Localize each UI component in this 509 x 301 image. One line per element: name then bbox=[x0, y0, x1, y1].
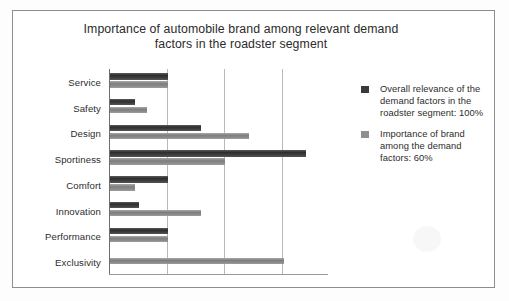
bar-design-importance-of-brand bbox=[110, 133, 249, 139]
bar-comfort-importance-of-brand bbox=[110, 184, 135, 190]
legend-label-line-1: Importance of brand bbox=[380, 128, 501, 140]
bar-innovation-importance-of-brand bbox=[110, 210, 201, 216]
category-label-exclusivity: Exclusivity bbox=[55, 257, 101, 268]
gridline-1 bbox=[167, 69, 168, 275]
bar-performance-overall-relevance bbox=[110, 228, 168, 234]
category-label-safety: Safety bbox=[73, 102, 101, 113]
chart-title-line-2: factors in the roadster segment bbox=[41, 37, 441, 52]
scan-artifact bbox=[413, 226, 441, 252]
category-label-performance: Performance bbox=[45, 231, 101, 242]
bar-sportiness-overall-relevance bbox=[110, 150, 306, 156]
chart-legend: Overall relevance of the demand factors … bbox=[361, 83, 501, 174]
chart-title: Importance of automobile brand among rel… bbox=[41, 22, 441, 52]
legend-label-line-2: among the demand bbox=[380, 140, 501, 152]
square-swatch-icon bbox=[361, 86, 369, 94]
plot-area: Service Safety Design Sportiness bbox=[109, 69, 328, 275]
category-label-design: Design bbox=[71, 128, 101, 139]
legend-label-line-3: factors: 60% bbox=[380, 152, 501, 164]
bar-safety-importance-of-brand bbox=[110, 107, 147, 113]
legend-label-line-1: Overall relevance of the bbox=[380, 83, 501, 95]
chart-title-line-1: Importance of automobile brand among rel… bbox=[41, 22, 441, 37]
category-label-service: Service bbox=[68, 76, 101, 87]
category-label-innovation: Innovation bbox=[56, 205, 101, 216]
x-axis-line bbox=[109, 274, 328, 275]
bar-design-overall-relevance bbox=[110, 125, 201, 131]
gridline-3 bbox=[282, 69, 283, 275]
bar-service-overall-relevance bbox=[110, 73, 168, 79]
gridline-2 bbox=[224, 69, 225, 275]
bar-exclusivity-importance-of-brand bbox=[110, 258, 284, 264]
bar-performance-importance-of-brand bbox=[110, 236, 168, 242]
category-label-comfort: Comfort bbox=[66, 179, 101, 190]
legend-entry-importance-of-brand: Importance of brand among the demand fac… bbox=[361, 128, 501, 164]
bar-service-importance-of-brand bbox=[110, 81, 168, 87]
legend-entry-overall-relevance: Overall relevance of the demand factors … bbox=[361, 83, 501, 119]
bar-safety-overall-relevance bbox=[110, 99, 135, 105]
legend-label-line-3: roadster segment: 100% bbox=[380, 107, 501, 119]
legend-label-line-2: demand factors in the bbox=[380, 95, 501, 107]
bar-comfort-overall-relevance bbox=[110, 176, 168, 182]
bar-sportiness-importance-of-brand bbox=[110, 158, 225, 164]
category-label-sportiness: Sportiness bbox=[55, 154, 101, 165]
bar-innovation-overall-relevance bbox=[110, 202, 139, 208]
square-swatch-icon bbox=[361, 131, 369, 139]
chart-frame: Importance of automobile brand among rel… bbox=[12, 10, 495, 288]
scanned-page: Importance of automobile brand among rel… bbox=[0, 0, 509, 301]
